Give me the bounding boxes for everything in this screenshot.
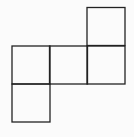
square-middle-right [87,46,125,84]
square-top-right [87,8,125,46]
square-middle-left [12,46,50,84]
square-bottom-left [12,84,50,122]
square-net-diagram [0,0,134,137]
square-middle-center [50,46,88,84]
